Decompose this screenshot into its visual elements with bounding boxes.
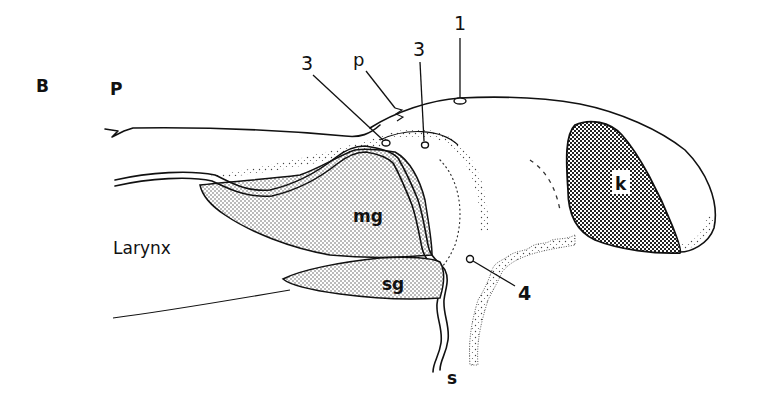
right-lobe-shading	[680, 215, 714, 250]
larynx-label: Larynx	[113, 238, 171, 258]
pore-1	[454, 98, 466, 104]
mandibular-gland	[200, 149, 432, 257]
k-label: k	[615, 174, 627, 194]
leader-p	[366, 71, 395, 108]
p-duct-label: p	[353, 49, 364, 70]
number-3b-label: 3	[413, 38, 425, 60]
pore-3a	[382, 140, 390, 146]
number-4-label: 4	[518, 282, 531, 304]
sublingual-gland	[283, 257, 444, 299]
stalk-label: s	[447, 368, 457, 388]
leader-3a	[313, 75, 383, 140]
p-zigzag	[395, 108, 403, 121]
internal-dashed-line	[530, 160, 560, 210]
lower-duct-line	[113, 290, 290, 318]
panel-label: B	[36, 76, 49, 96]
pore-3b	[422, 142, 429, 148]
sg-label: sg	[382, 274, 404, 294]
interior-dotted-curve	[435, 160, 460, 272]
pore-4	[467, 256, 474, 263]
pharynx-label: P	[110, 79, 122, 99]
leader-3b	[420, 62, 424, 141]
anatomical-diagram: k mg sg B P Larynx p 1 3 3 4 s	[0, 0, 757, 401]
number-1-label: 1	[454, 12, 466, 34]
mg-label: mg	[353, 206, 383, 226]
number-3a-label: 3	[301, 52, 313, 74]
upper-duct-outline	[105, 125, 380, 137]
